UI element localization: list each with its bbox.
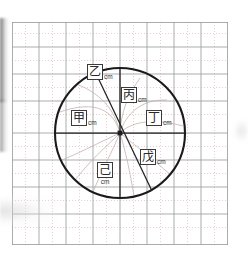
label-ji-glyph: 己 <box>97 162 113 178</box>
label-yi-glyph: 乙 <box>87 64 103 80</box>
label-bing-glyph: 丙 <box>121 87 137 103</box>
label-yi-unit: cm <box>104 73 113 81</box>
label-jia-unit: cm <box>88 119 97 127</box>
label-ji: 己 cm <box>97 160 113 186</box>
label-ding-unit: cm <box>163 119 172 127</box>
circle-geometry-figure <box>0 0 248 257</box>
diagram-canvas: 乙 cm 丙 cm 甲 cm 丁 cm 戊 cm 己 cm <box>0 0 248 257</box>
label-wu-glyph: 戊 <box>140 149 156 165</box>
label-jia-glyph: 甲 <box>71 110 87 126</box>
label-ji-unit: cm <box>97 178 113 186</box>
label-jia: 甲 cm <box>71 110 97 126</box>
center-point <box>118 131 123 136</box>
label-yi: 乙 cm <box>87 64 113 80</box>
label-wu: 戊 cm <box>140 149 166 165</box>
label-ding-glyph: 丁 <box>146 110 162 126</box>
label-bing: 丙 cm <box>121 87 147 103</box>
label-bing-unit: cm <box>138 96 147 104</box>
label-ding: 丁 cm <box>146 110 172 126</box>
label-wu-unit: cm <box>157 158 166 166</box>
